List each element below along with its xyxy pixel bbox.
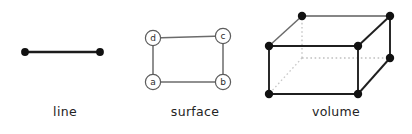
volume-vertex-back-bottom-right bbox=[386, 54, 394, 62]
surface-node-a: a bbox=[145, 74, 160, 89]
node-label-c: c bbox=[221, 31, 226, 41]
node-label-d: d bbox=[150, 33, 156, 43]
volume-edge-fbr-bbr bbox=[358, 58, 390, 94]
surface-edge-d-c bbox=[153, 36, 223, 38]
geometry-figure: line d c bbox=[0, 0, 412, 134]
panel-surface: d c a b surface bbox=[130, 0, 260, 134]
volume-vertex-back-top-right bbox=[386, 12, 394, 20]
volume-svg bbox=[260, 0, 412, 104]
volume-edge-ftl-btl bbox=[269, 16, 302, 46]
surface-node-b: b bbox=[215, 74, 230, 89]
surface-svg: d c a b bbox=[130, 0, 260, 104]
surface-node-c: c bbox=[215, 28, 230, 43]
volume-diagram bbox=[260, 0, 412, 104]
node-label-a: a bbox=[150, 77, 156, 87]
volume-vertex-front-bottom-left bbox=[265, 90, 273, 98]
volume-edge-hidden-bbl-fbl bbox=[269, 58, 302, 94]
panel-line: line bbox=[0, 0, 130, 134]
volume-vertex-front-bottom-right bbox=[354, 90, 362, 98]
caption-line: line bbox=[0, 104, 130, 120]
surface-diagram: d c a b bbox=[130, 0, 260, 104]
caption-surface: surface bbox=[130, 104, 260, 120]
line-svg bbox=[0, 0, 130, 104]
volume-vertex-front-top-right bbox=[354, 42, 362, 50]
surface-node-d: d bbox=[145, 30, 160, 45]
node-label-b: b bbox=[220, 77, 226, 87]
volume-vertex-back-top-left bbox=[298, 12, 306, 20]
volume-vertex-front-top-left bbox=[265, 42, 273, 50]
panel-volume: volume bbox=[260, 0, 412, 134]
line-vertex-right bbox=[96, 48, 104, 56]
caption-volume: volume bbox=[260, 104, 412, 120]
line-diagram bbox=[0, 0, 130, 104]
line-vertex-left bbox=[21, 48, 29, 56]
volume-edge-ftr-btr bbox=[358, 16, 390, 46]
